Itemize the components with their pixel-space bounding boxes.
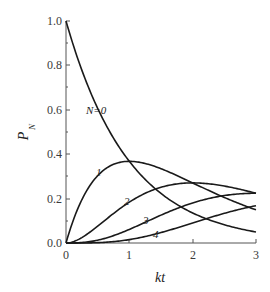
x-axis-ticks xyxy=(129,239,256,243)
curve-label-n3: 3 xyxy=(142,214,149,226)
x-tick-label: 1 xyxy=(126,248,132,262)
y-tick-label: 0.2 xyxy=(47,192,62,206)
curve-label-n1: 1 xyxy=(96,166,102,178)
y-tick-label: 0.8 xyxy=(47,58,62,72)
curve-label-n2: 2 xyxy=(124,195,130,207)
curves xyxy=(66,21,256,243)
curve-label-n4: 4 xyxy=(153,228,159,240)
svg-text:N: N xyxy=(27,123,37,131)
x-tick-label: 2 xyxy=(190,248,196,262)
curve-n1 xyxy=(66,161,256,243)
x-tick-label: 0 xyxy=(63,248,69,262)
curve-n3 xyxy=(66,193,256,243)
curve-n4 xyxy=(66,206,256,243)
curve-n0 xyxy=(66,21,256,232)
y-tick-label: 0.6 xyxy=(47,103,62,117)
x-axis-title: kt xyxy=(155,270,166,285)
y-tick-label: 0.4 xyxy=(47,147,62,161)
svg-text:P: P xyxy=(16,131,31,141)
y-tick-label: 0.0 xyxy=(47,236,62,250)
curve-label-n0: N=0 xyxy=(85,104,107,116)
y-tick-label: 1.0 xyxy=(47,14,62,28)
x-tick-label: 3 xyxy=(253,248,259,262)
poisson-chart: 0.0 0.2 0.4 0.6 0.8 1.0 0 1 2 3 kt P N N… xyxy=(0,0,270,292)
y-axis-title: P N xyxy=(16,123,37,141)
y-axis-ticks xyxy=(66,21,70,243)
